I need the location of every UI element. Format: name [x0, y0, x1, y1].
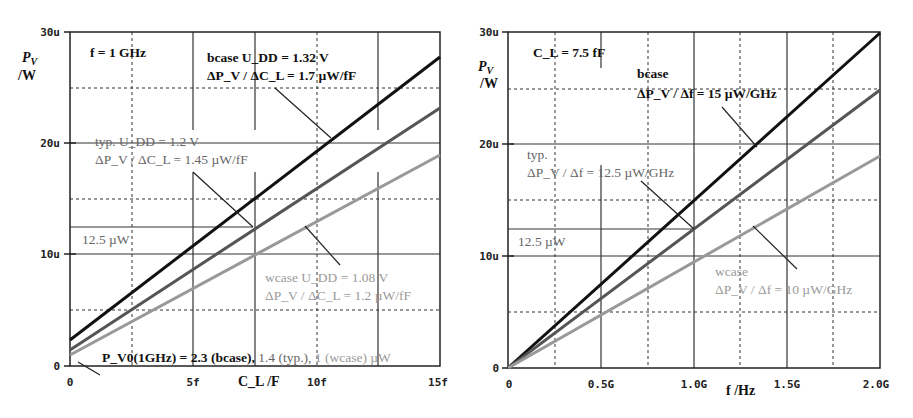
right-x-tick-1-0G: 1.0G	[681, 378, 708, 391]
left-title: f = 1 GHz	[90, 45, 146, 60]
left-pv0-typ: 1.4 (typ.),	[258, 350, 311, 365]
left-chart: 30u 20u 10u 0 0 5f 10f 15f PV /W C_L /F …	[17, 26, 448, 389]
left-reference-label: 12.5 µW	[82, 232, 130, 247]
left-x-tick-10f: 10f	[307, 376, 327, 389]
right-x-tick-2-0G: 2.0G	[863, 378, 890, 391]
left-typ-label-2: ΔP_V / ΔC_L = 1.45 µW/fF	[95, 152, 248, 167]
left-y-tick-20u: 20u	[40, 137, 60, 150]
right-bcase-label-2: ΔP_V / Δf = 15 µW/GHz	[637, 86, 777, 101]
right-x-axis-label: f /Hz	[726, 383, 755, 398]
left-bcase-label-2: ΔP_V / ΔC_L = 1.7 µW/fF	[207, 68, 356, 83]
left-pv0-wcase: 1 (wcase) µW	[315, 350, 391, 365]
left-pv0-bcase: P_V0(1GHz) = 2.3 (bcase),	[102, 350, 255, 365]
left-wcase-label-1: wcase U_DD = 1.08 V	[265, 270, 388, 285]
right-x-tick-0-5G: 0.5G	[588, 378, 615, 391]
left-y-tick-10u: 10u	[40, 248, 60, 261]
right-x-tick-1-5G: 1.5G	[774, 378, 801, 391]
right-y-tick-20u: 20u	[479, 138, 499, 151]
left-y-tick-0: 0	[53, 360, 60, 373]
right-typ-label-1: typ.	[527, 147, 548, 162]
right-wcase-label-1: wcase	[715, 264, 748, 279]
right-typ-label-2: ΔP_V / Δf = 12.5 µW/GHz	[527, 165, 674, 180]
left-x-axis-label: C_L /F	[238, 374, 280, 389]
left-y-axis-label: PV	[22, 50, 39, 67]
figure: 30u 20u 10u 0 0 5f 10f 15f PV /W C_L /F …	[0, 0, 913, 418]
left-typ-label-1: typ. U_DD = 1.2 V	[95, 134, 199, 149]
right-y-axis-unit: /W	[479, 76, 498, 91]
right-y-tick-30u: 30u	[479, 26, 499, 39]
right-title: C_L = 7.5 fF	[533, 45, 605, 60]
left-pv0-label: P_V0(1GHz) = 2.3 (bcase), 1.4 (typ.), 1 …	[102, 350, 391, 365]
right-reference-label: 12.5 µW	[518, 234, 566, 249]
right-y-axis-label: PV	[478, 59, 495, 76]
right-y-tick-0: 0	[492, 362, 499, 375]
left-x-tick-15f: 15f	[428, 376, 448, 389]
right-x-tick-0: 0	[506, 378, 513, 391]
right-y-tick-10u: 10u	[479, 250, 499, 263]
left-x-tick-0: 0	[67, 376, 74, 389]
right-chart: 30u 20u 10u 0 0 0.5G 1.0G 1.5G 2.0G PV /…	[478, 26, 890, 398]
right-leader-lines	[641, 107, 797, 269]
right-wcase-label-2: ΔP_V / Δf = 10 µW/GHz	[715, 282, 852, 297]
left-y-axis-unit: /W	[17, 68, 36, 83]
right-bcase-label-1: bcase	[637, 66, 669, 81]
left-bcase-label-1: bcase U_DD = 1.32 V	[207, 50, 329, 65]
left-x-tick-5f: 5f	[186, 376, 199, 389]
left-y-tick-30u: 30u	[40, 26, 60, 39]
left-wcase-label-2: ΔP_V / ΔC_L = 1.2 µW/fF	[265, 288, 412, 303]
